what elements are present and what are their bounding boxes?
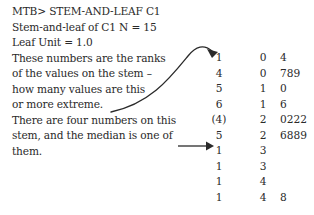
- right-arrow-icon: [178, 142, 214, 151]
- annotation-arrows: [0, 0, 314, 215]
- curved-arrow-icon: [111, 47, 218, 112]
